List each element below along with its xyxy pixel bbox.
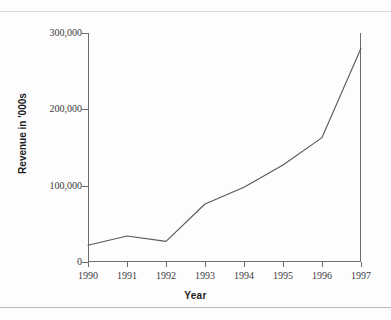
- x-tick-label: 1992: [146, 270, 186, 281]
- x-tick-label: 1993: [185, 270, 225, 281]
- x-axis-title: Year: [0, 290, 391, 301]
- x-tick-mark: [166, 262, 167, 267]
- y-tick-label: 200,000: [20, 104, 82, 114]
- x-tick-label: 1997: [341, 270, 381, 281]
- x-tick-label: 1994: [224, 270, 264, 281]
- y-axis-title: Revenue in '000s: [17, 74, 28, 194]
- x-tick-label: 1996: [302, 270, 342, 281]
- y-tick-label: 100,000: [20, 181, 82, 191]
- x-tick-mark: [244, 262, 245, 267]
- x-tick-mark: [127, 262, 128, 267]
- revenue-line-chart: 0100,000200,000300,000 Revenue in '000s …: [0, 0, 391, 307]
- x-tick-mark: [88, 262, 89, 267]
- scanned-page: 0100,000200,000300,000 Revenue in '000s …: [0, 0, 391, 320]
- y-tick-label: 0: [20, 257, 82, 267]
- x-tick-mark: [205, 262, 206, 267]
- x-tick-label: 1990: [68, 270, 108, 281]
- x-tick-mark: [322, 262, 323, 267]
- revenue-series-line: [88, 48, 361, 245]
- page-rule-bottom: [0, 307, 391, 308]
- plot-series-layer: [88, 33, 361, 262]
- x-tick-label: 1991: [107, 270, 147, 281]
- y-tick-label: 300,000: [20, 28, 82, 38]
- x-tick-mark: [361, 262, 362, 267]
- x-tick-mark: [283, 262, 284, 267]
- x-tick-label: 1995: [263, 270, 303, 281]
